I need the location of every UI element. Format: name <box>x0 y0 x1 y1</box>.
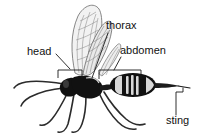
compound-eye <box>63 80 69 88</box>
label-head: head <box>27 45 51 57</box>
label-sting: sting <box>166 114 189 126</box>
label-abdomen: abdomen <box>120 44 166 56</box>
wasp-anatomy-figure: head thorax abdomen sting <box>0 0 199 139</box>
label-thorax: thorax <box>106 19 137 31</box>
